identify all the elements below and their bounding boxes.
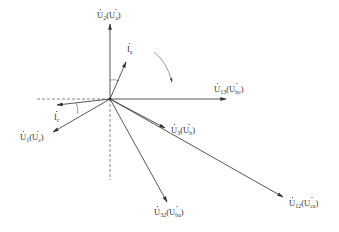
label-u1: U1(Uc) xyxy=(20,132,44,143)
phasor-diagram: U2(Ua) Ia U13(Ubc) Ic U1(Uc) U3(Ub) U32(… xyxy=(0,0,339,232)
label-u3: U3(Ub) xyxy=(171,125,195,136)
label-ia: Ia xyxy=(127,44,133,55)
phasor-u12 xyxy=(110,99,283,197)
label-u32: U32(Uba) xyxy=(154,207,184,218)
phasor-ia xyxy=(110,62,126,99)
angle-arc-ic xyxy=(76,103,78,114)
label-u12: U12(Uca) xyxy=(289,198,318,209)
phasor-u1 xyxy=(53,99,110,132)
rotation-direction-arrow xyxy=(154,52,172,82)
label-u2: U2(Ua) xyxy=(97,10,121,21)
phasor-dots xyxy=(23,9,313,207)
origin-point xyxy=(109,98,112,101)
label-u13: U13(Ubc) xyxy=(214,84,244,95)
label-ic: Ic xyxy=(54,112,60,123)
